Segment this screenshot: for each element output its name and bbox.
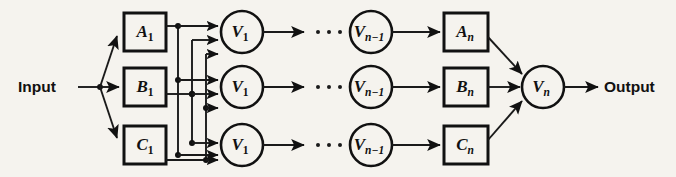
module-an: An [444,13,488,51]
module-cn: Cn [444,126,488,164]
ellipsis-bottom [316,143,342,147]
module-b1-label: B [135,77,147,96]
ellipsis-middle [316,85,342,89]
voter-vn-final: Vn [522,66,564,108]
module-cn-label: C [456,135,468,154]
input-fanout-wiring [78,36,119,138]
stage-n-convergence-wiring [488,37,522,140]
stage1-to-ellipsis-wiring [263,32,304,145]
module-c1: C1 [124,126,166,164]
voter-vn-1-mid: Vn−1 [350,66,392,108]
voter-vn-1-bot: Vn−1 [350,124,392,166]
vn-1-to-module-wiring [392,32,440,145]
figure-canvas: A1 B1 C1 [0,0,676,177]
voter-v1-bot: V1 [221,124,263,166]
module-bn-label: B [455,77,467,96]
ellipsis-top [316,30,342,34]
module-a1-label: A [135,22,147,41]
module-an-label: A [455,22,467,41]
block-diagram: A1 B1 C1 [0,0,676,177]
bus-from-b1 [166,40,218,146]
module-bn: Bn [444,68,488,106]
voter-vn-1-top: Vn−1 [350,11,392,53]
module-b1: B1 [124,68,166,106]
module-c1-label: C [136,135,148,154]
voter-v1-top: V1 [221,11,263,53]
voter-v1-mid: V1 [221,66,263,108]
module-a1: A1 [124,13,166,51]
